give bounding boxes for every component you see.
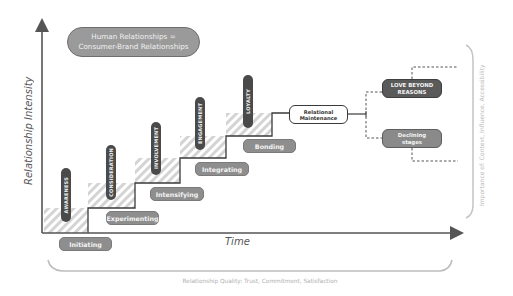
- stage-bonding: Bonding: [243, 139, 296, 153]
- title-pill: Human Relationships = Consumer-Brand Rel…: [67, 27, 200, 57]
- stage-intensifying: Intensifying: [150, 187, 204, 201]
- side-note: Importance of: Context, Influence, Acces…: [478, 50, 488, 220]
- title-line-1: Human Relationships =: [68, 32, 199, 42]
- title-line-2: Consumer-Brand Relationships: [68, 42, 199, 52]
- x-axis-arrowhead-icon: [450, 226, 464, 240]
- stage-integrating: Integrating: [195, 162, 249, 176]
- pillar-consideration: CONSIDERATION: [106, 145, 116, 200]
- stage-initiating: Initiating: [59, 237, 112, 251]
- stage-experimenting: Experimenting: [106, 211, 159, 225]
- pillar-loyalty: LOYALTY: [243, 75, 253, 128]
- right-bracket: [466, 45, 473, 218]
- x-axis-label: Time: [225, 236, 250, 247]
- relationship-stages-diagram: Human Relationships = Consumer-Brand Rel…: [0, 0, 513, 296]
- y-axis-arrowhead-icon: [35, 18, 49, 32]
- pillar-awareness: AWARENESS: [61, 168, 71, 222]
- y-axis-label: Relationship Intensity: [23, 72, 35, 190]
- relational-maintenance-box: Relational Maintenance: [289, 105, 348, 124]
- declining-stages-box: Declining stages: [382, 129, 442, 148]
- bottom-bracket: [48, 260, 452, 271]
- pillar-involvement: INVOLVEMENT: [151, 122, 161, 175]
- love-beyond-reasons-box: LOVE BEYOND REASONS: [382, 79, 442, 98]
- pillar-engagement: ENGAGEMENT: [195, 97, 205, 150]
- bottom-note: Relationship Quality: Trust, Commitment,…: [130, 278, 390, 284]
